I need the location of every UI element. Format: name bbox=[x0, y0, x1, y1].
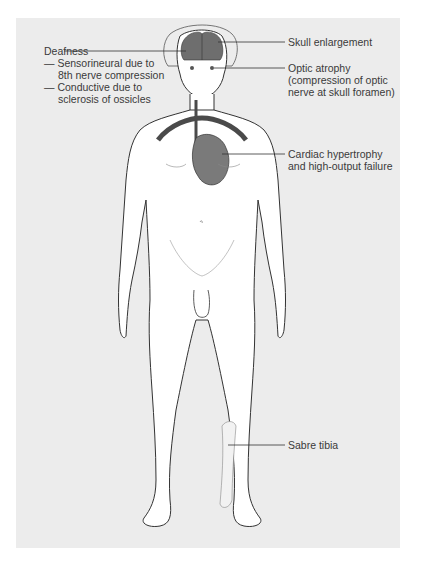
sabre-tibia-label: Sabre tibia bbox=[288, 439, 338, 451]
deafness-item-2: — Conductive due to bbox=[44, 81, 164, 93]
skull-enlargement-label: Skull enlargement bbox=[288, 36, 372, 48]
deafness-label: Deafness — Sensorineural due to 8th nerv… bbox=[44, 45, 164, 105]
cardiac-label: Cardiac hypertrophy and high-output fail… bbox=[288, 148, 393, 172]
deafness-title: Deafness bbox=[44, 45, 164, 57]
optic-atrophy-label: Optic atrophy (compression of optic nerv… bbox=[288, 62, 395, 98]
deafness-item-1: — Sensorineural due to bbox=[44, 57, 164, 69]
deafness-item-1-cont: 8th nerve compression bbox=[44, 69, 164, 81]
deafness-item-2-cont: sclerosis of ossicles bbox=[44, 93, 164, 105]
